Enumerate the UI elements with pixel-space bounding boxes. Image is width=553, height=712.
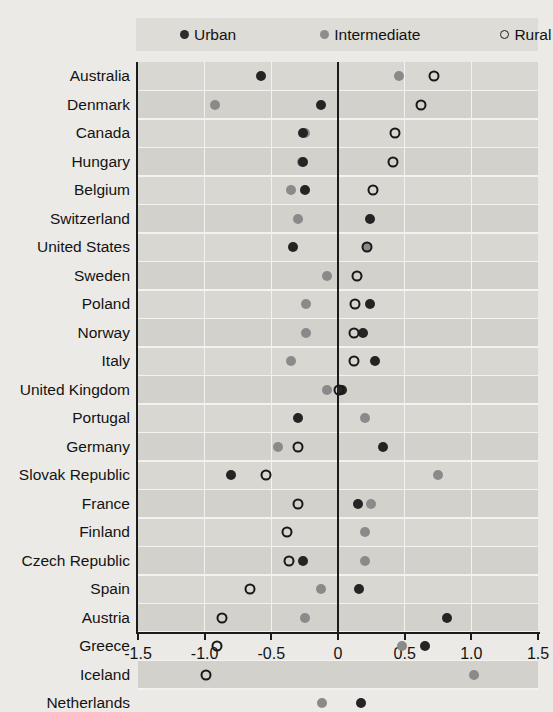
plot-row-band — [138, 689, 538, 712]
data-point-urban[interactable] — [420, 641, 430, 651]
data-point-rural[interactable] — [362, 242, 373, 253]
data-point-intermediate[interactable] — [316, 584, 326, 594]
data-point-urban[interactable] — [370, 356, 380, 366]
country-label: United Kingdom — [0, 376, 130, 405]
country-label: Austria — [0, 604, 130, 633]
data-point-urban[interactable] — [358, 328, 368, 338]
country-label: Belgium — [0, 176, 130, 205]
x-tick-label: -0.5 — [236, 645, 306, 663]
data-point-intermediate[interactable] — [317, 698, 327, 708]
data-point-intermediate[interactable] — [286, 185, 296, 195]
data-point-rural[interactable] — [367, 185, 378, 196]
country-label: Portugal — [0, 404, 130, 433]
data-point-urban[interactable] — [293, 413, 303, 423]
data-point-intermediate[interactable] — [360, 413, 370, 423]
country-label: Sweden — [0, 262, 130, 291]
data-point-urban[interactable] — [365, 299, 375, 309]
filled-dark-circle-icon — [180, 30, 189, 39]
plot-area — [138, 62, 538, 632]
data-point-intermediate[interactable] — [210, 100, 220, 110]
country-label: Slovak Republic — [0, 461, 130, 490]
data-point-rural[interactable] — [282, 527, 293, 538]
country-label: United States — [0, 233, 130, 262]
data-point-intermediate[interactable] — [433, 470, 443, 480]
x-gridline — [271, 62, 273, 632]
data-point-rural[interactable] — [349, 327, 360, 338]
data-point-intermediate[interactable] — [469, 670, 479, 680]
country-label: Canada — [0, 119, 130, 148]
x-tick-label: 1.5 — [503, 645, 553, 663]
data-point-rural[interactable] — [261, 470, 272, 481]
data-point-rural[interactable] — [217, 612, 228, 623]
data-point-urban[interactable] — [256, 71, 266, 81]
data-point-intermediate[interactable] — [300, 613, 310, 623]
data-point-urban[interactable] — [298, 128, 308, 138]
x-tick-label: 0 — [303, 645, 373, 663]
data-point-intermediate[interactable] — [397, 641, 407, 651]
data-point-urban[interactable] — [442, 613, 452, 623]
data-point-intermediate[interactable] — [322, 271, 332, 281]
data-point-rural[interactable] — [349, 356, 360, 367]
data-point-rural[interactable] — [415, 99, 426, 110]
data-point-intermediate[interactable] — [394, 71, 404, 81]
data-point-rural[interactable] — [387, 156, 398, 167]
data-point-urban[interactable] — [300, 185, 310, 195]
country-label: Denmark — [0, 91, 130, 120]
data-point-urban[interactable] — [298, 556, 308, 566]
data-point-urban[interactable] — [378, 442, 388, 452]
data-point-urban[interactable] — [226, 470, 236, 480]
data-point-urban[interactable] — [354, 584, 364, 594]
legend-item-urban[interactable]: Urban — [180, 26, 236, 44]
data-point-urban[interactable] — [298, 157, 308, 167]
zero-reference-line — [337, 62, 339, 632]
data-point-intermediate[interactable] — [273, 442, 283, 452]
data-point-intermediate[interactable] — [322, 385, 332, 395]
data-point-urban[interactable] — [288, 242, 298, 252]
legend-item-intermediate[interactable]: Intermediate — [320, 26, 420, 44]
data-point-intermediate[interactable] — [360, 556, 370, 566]
data-point-intermediate[interactable] — [286, 356, 296, 366]
data-point-rural[interactable] — [211, 641, 222, 652]
data-point-intermediate[interactable] — [293, 214, 303, 224]
data-point-urban[interactable] — [353, 499, 363, 509]
data-point-intermediate[interactable] — [301, 299, 311, 309]
country-label: Hungary — [0, 148, 130, 177]
x-gridline — [404, 62, 406, 632]
country-label: Italy — [0, 347, 130, 376]
data-point-rural[interactable] — [334, 384, 345, 395]
data-point-urban[interactable] — [316, 100, 326, 110]
country-label: Finland — [0, 518, 130, 547]
x-gridline — [204, 62, 206, 632]
legend-label-rural: Rural — [514, 26, 551, 44]
legend-item-rural[interactable]: Rural — [500, 26, 551, 44]
country-label: Norway — [0, 319, 130, 348]
data-point-rural[interactable] — [390, 128, 401, 139]
data-point-rural[interactable] — [201, 669, 212, 680]
x-axis-line — [136, 632, 540, 634]
country-label: Australia — [0, 62, 130, 91]
data-point-rural[interactable] — [283, 555, 294, 566]
data-point-rural[interactable] — [351, 270, 362, 281]
data-point-intermediate[interactable] — [301, 328, 311, 338]
data-point-rural[interactable] — [429, 71, 440, 82]
legend-label-urban: Urban — [194, 26, 236, 44]
filled-grey-circle-icon — [320, 30, 329, 39]
data-point-intermediate[interactable] — [366, 499, 376, 509]
row-gridline — [138, 688, 538, 690]
data-point-rural[interactable] — [350, 299, 361, 310]
data-point-urban[interactable] — [356, 698, 366, 708]
data-point-rural[interactable] — [245, 584, 256, 595]
country-label: Netherlands — [0, 689, 130, 712]
country-label: Switzerland — [0, 205, 130, 234]
data-point-rural[interactable] — [293, 498, 304, 509]
data-point-intermediate[interactable] — [360, 527, 370, 537]
x-tick-label: -1.5 — [103, 645, 173, 663]
x-tick-label: -1.0 — [170, 645, 240, 663]
x-gridline — [471, 62, 473, 632]
country-axis-labels: AustraliaDenmarkCanadaHungaryBelgiumSwit… — [0, 62, 130, 632]
legend-label-intermediate: Intermediate — [334, 26, 420, 44]
data-point-urban[interactable] — [365, 214, 375, 224]
country-label: Germany — [0, 433, 130, 462]
data-point-rural[interactable] — [293, 441, 304, 452]
